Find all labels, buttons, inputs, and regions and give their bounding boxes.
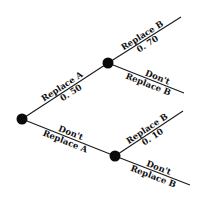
decision-tree-diagram: Replace A 0. 50 Don't Replace A Replace …: [0, 0, 202, 203]
decision-node-dont-replace-a: [110, 151, 121, 162]
decision-node-root: [17, 114, 28, 125]
decision-node-replace-a: [103, 58, 114, 69]
